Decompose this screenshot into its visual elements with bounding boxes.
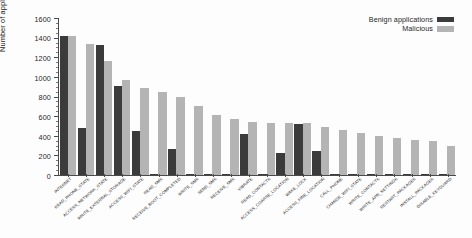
- y-tick-minor: [56, 23, 58, 24]
- bar-group: [312, 18, 330, 175]
- bar-group: [239, 18, 257, 175]
- bar-benign: [222, 174, 230, 175]
- y-tick-label: 1200: [34, 55, 51, 62]
- y-tick-minor: [56, 52, 58, 53]
- bar-malicious: [429, 141, 437, 175]
- bar-group: [438, 18, 456, 175]
- y-tick-major: [54, 155, 58, 156]
- bar-benign: [168, 149, 176, 175]
- bar-group: [348, 18, 366, 175]
- bar-malicious: [212, 115, 220, 175]
- bar-group: [366, 18, 384, 175]
- y-tick-minor: [56, 47, 58, 48]
- bar-group: [330, 18, 348, 175]
- bar-group: [185, 18, 203, 175]
- bar-group: [59, 18, 77, 175]
- bar-malicious: [285, 123, 293, 175]
- legend-item-benign: Benign applications: [369, 15, 454, 24]
- legend-swatch-malicious: [437, 26, 454, 32]
- bar-malicious: [176, 97, 184, 176]
- y-tick-minor: [56, 33, 58, 34]
- bar-group: [203, 18, 221, 175]
- y-tick-label: 800: [39, 94, 51, 101]
- y-tick-minor: [56, 62, 58, 63]
- bar-benign: [312, 151, 320, 175]
- y-tick-minor: [56, 160, 58, 161]
- y-tick-major: [54, 116, 58, 117]
- bar-group: [113, 18, 131, 175]
- bar-malicious: [104, 61, 112, 175]
- x-tick-label: DISABLE_KEYGUARD: [416, 177, 453, 210]
- bar-benign: [385, 174, 393, 175]
- bar-benign: [367, 174, 375, 175]
- y-tick-minor: [56, 146, 58, 147]
- legend-item-malicious: Malicious: [369, 24, 454, 33]
- legend-swatch-benign: [437, 17, 454, 23]
- bar-benign: [60, 36, 68, 175]
- y-tick-major: [54, 175, 58, 176]
- bar-benign: [348, 174, 356, 175]
- y-tick-minor: [56, 67, 58, 68]
- bar-groups: [59, 18, 456, 175]
- bar-benign: [78, 128, 86, 175]
- y-tick-label: 600: [39, 114, 51, 121]
- y-tick-major: [54, 77, 58, 78]
- y-tick-major: [54, 38, 58, 39]
- y-tick-minor: [56, 82, 58, 83]
- chart-figure: Number of applications 02004006008001000…: [0, 0, 472, 238]
- y-tick-minor: [56, 141, 58, 142]
- bar-malicious: [411, 140, 419, 175]
- y-tick-minor: [56, 87, 58, 88]
- y-tick-label: 1000: [34, 74, 51, 81]
- y-tick-minor: [56, 43, 58, 44]
- y-tick-major: [54, 97, 58, 98]
- bar-benign: [276, 153, 284, 175]
- legend-label-benign: Benign applications: [369, 15, 433, 24]
- x-tick-label: ACCESS_WIFI_STATE: [109, 177, 146, 210]
- bar-malicious: [267, 123, 275, 175]
- y-tick-minor: [56, 28, 58, 29]
- bar-malicious: [68, 36, 76, 175]
- y-tick-label: 1400: [34, 35, 51, 42]
- y-tick-label: 400: [39, 133, 51, 140]
- bar-group: [402, 18, 420, 175]
- y-tick-minor: [56, 131, 58, 132]
- bar-benign: [403, 174, 411, 175]
- y-tick-minor: [56, 165, 58, 166]
- bar-group: [294, 18, 312, 175]
- chart-legend: Benign applications Malicious: [369, 15, 454, 34]
- bar-malicious: [158, 92, 166, 175]
- bar-malicious: [357, 133, 365, 175]
- bar-malicious: [230, 119, 238, 175]
- x-axis-labels: INTERNETREAD_PHONE_STATEACCESS_NETWORK_S…: [58, 177, 456, 238]
- bar-benign: [330, 174, 338, 175]
- y-axis-title: Number of applications: [0, 0, 7, 52]
- bar-group: [384, 18, 402, 175]
- y-tick-minor: [56, 92, 58, 93]
- y-tick-minor: [56, 101, 58, 102]
- y-tick-minor: [56, 111, 58, 112]
- bar-group: [167, 18, 185, 175]
- bar-group: [95, 18, 113, 175]
- y-tick-major: [54, 136, 58, 137]
- bar-malicious: [194, 106, 202, 175]
- bar-malicious: [140, 88, 148, 175]
- bar-group: [221, 18, 239, 175]
- bar-benign: [204, 174, 212, 175]
- bar-malicious: [86, 44, 94, 175]
- y-tick-minor: [56, 121, 58, 122]
- bar-benign: [294, 124, 302, 175]
- bar-malicious: [303, 123, 311, 175]
- y-tick-label: 1600: [34, 15, 51, 22]
- y-tick-minor: [56, 106, 58, 107]
- bar-malicious: [248, 122, 256, 175]
- bar-benign: [439, 174, 447, 175]
- y-tick-minor: [56, 170, 58, 171]
- bar-benign: [186, 174, 194, 175]
- bar-group: [258, 18, 276, 175]
- bar-benign: [258, 174, 266, 175]
- bar-group: [420, 18, 438, 175]
- x-axis-line: [58, 175, 456, 176]
- bar-benign: [132, 131, 140, 175]
- bar-group: [276, 18, 294, 175]
